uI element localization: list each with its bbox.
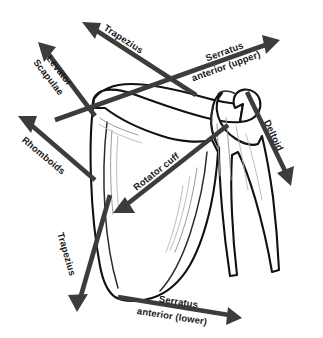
arrow-levator-scapulae [38, 42, 95, 116]
arrow-rhomboids [18, 116, 95, 180]
scapula-muscle-vector-diagram: Trapezius Levator Scapulae Rhomboids Tra… [0, 0, 323, 338]
scapula-bone-group [91, 84, 279, 301]
arrow-serratus-anterior-lower [118, 297, 242, 325]
diagram-canvas [0, 0, 323, 338]
